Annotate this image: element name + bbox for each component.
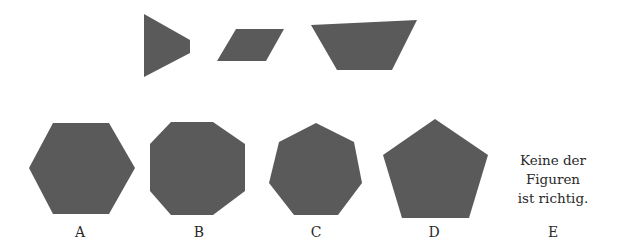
option-c-label[interactable]: C [296, 224, 336, 240]
option-b-label[interactable]: B [179, 224, 219, 240]
piece-truncated-triangle [144, 14, 190, 77]
piece-parallelogram [217, 29, 284, 61]
piece-trapezoid [311, 20, 417, 70]
option-e-text[interactable]: Keine der Figuren ist richtig. [498, 151, 608, 208]
option-d-pentagon[interactable] [383, 119, 488, 218]
option-d-label[interactable]: D [414, 224, 454, 240]
option-a-hexagon[interactable] [29, 123, 135, 214]
option-c-heptagon[interactable] [269, 123, 362, 215]
option-a-label[interactable]: A [60, 224, 100, 240]
puzzle-canvas: Keine der Figuren ist richtig. A B C D E [0, 0, 618, 252]
option-e-line-3: ist richtig. [498, 189, 608, 208]
option-e-line-1: Keine der [498, 151, 608, 170]
option-e-label[interactable]: E [533, 224, 573, 240]
shapes-layer [0, 0, 618, 252]
option-e-line-2: Figuren [498, 170, 608, 189]
option-b-octagon[interactable] [150, 122, 245, 215]
